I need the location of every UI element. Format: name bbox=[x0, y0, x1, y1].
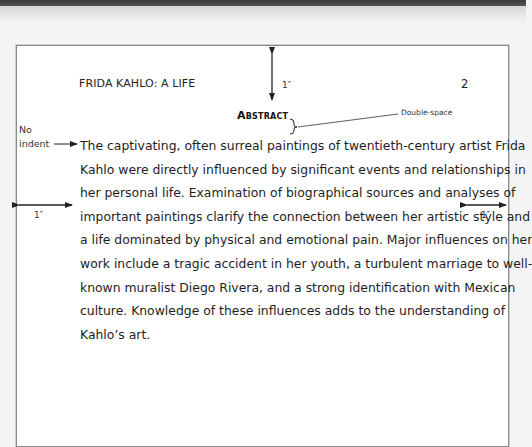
double-space-label: Double-space bbox=[401, 108, 452, 117]
body-line: culture. Knowledge of these influences a… bbox=[80, 299, 480, 323]
running-head: FRIDA KAHLO: A LIFE bbox=[79, 77, 195, 90]
top-margin-label: 1″ bbox=[282, 80, 291, 90]
page-number: 2 bbox=[461, 77, 468, 91]
no-indent-line-2: indent bbox=[19, 137, 49, 151]
left-margin-label: 1″ bbox=[34, 210, 43, 220]
body-line: Kahlo were directly influenced by signif… bbox=[80, 158, 480, 182]
top-shadow bbox=[0, 6, 526, 46]
no-indent-line-1: No bbox=[19, 123, 49, 137]
body-line: her personal life. Examination of biogra… bbox=[80, 181, 480, 205]
body-line: The captivating, often surreal paintings… bbox=[80, 134, 480, 158]
abstract-title: Abstract bbox=[237, 109, 288, 122]
body-line: important paintings clarify the connecti… bbox=[80, 205, 480, 229]
body-line: known muralist Diego Rivera, and a stron… bbox=[80, 276, 480, 300]
body-line: a life dominated by physical and emotion… bbox=[80, 228, 480, 252]
no-indent-label: No indent bbox=[19, 123, 49, 151]
abstract-body: The captivating, often surreal paintings… bbox=[80, 134, 480, 346]
body-line: work include a tragic accident in her yo… bbox=[80, 252, 480, 276]
body-line: Kahlo’s art. bbox=[80, 323, 480, 347]
